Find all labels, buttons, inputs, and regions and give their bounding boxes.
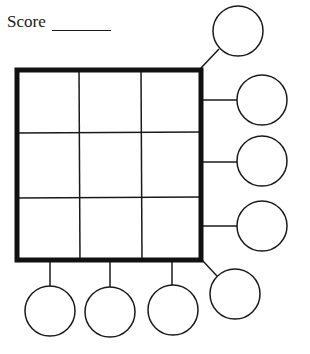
grid-cell[interactable] (142, 72, 199, 133)
grid-cell[interactable] (80, 198, 141, 258)
grid-cell[interactable] (80, 72, 141, 133)
grid-cells (19, 72, 199, 258)
answer-circle-row-2[interactable] (237, 136, 287, 186)
answer-circle-col-1[interactable] (25, 286, 75, 336)
magic-square-diagram (0, 0, 310, 354)
answer-circle-diag-bottom-right[interactable] (210, 269, 260, 319)
answer-circle-col-3[interactable] (148, 285, 198, 335)
grid-cell[interactable] (142, 134, 199, 197)
grid-cell[interactable] (19, 134, 79, 197)
grid-cell[interactable] (80, 134, 141, 197)
grid-cell[interactable] (142, 198, 199, 258)
grid-cell[interactable] (19, 198, 79, 258)
answer-circle-col-2[interactable] (85, 287, 135, 337)
answer-circle-row-3[interactable] (237, 201, 287, 251)
answer-circle-row-1[interactable] (237, 75, 287, 125)
answer-circle-diag-top-right[interactable] (213, 6, 263, 56)
connector-diag-bottom-right (202, 260, 217, 276)
connector-diag-top-right (201, 49, 219, 68)
grid-cell[interactable] (19, 72, 79, 133)
